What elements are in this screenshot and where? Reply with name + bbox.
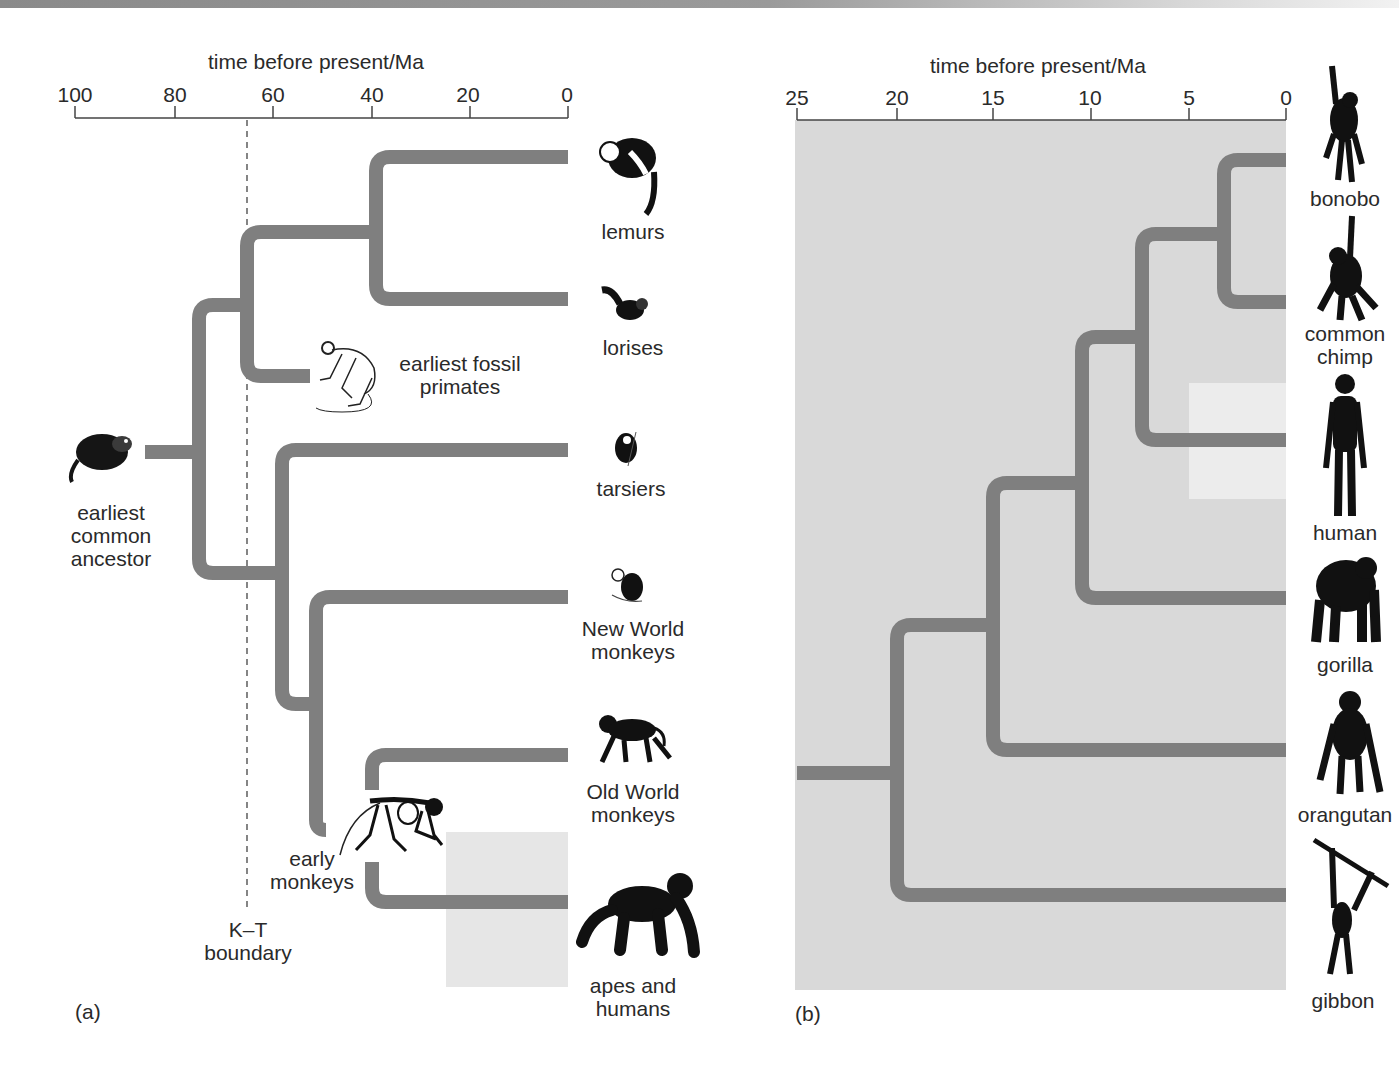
taxon-label-apes-and-humans: apes and humans	[572, 974, 694, 1020]
panel-a-tick: 80	[163, 83, 186, 107]
panel-a-tick: 20	[456, 83, 479, 107]
panel-b-tick: 25	[785, 86, 808, 110]
panel-a-label: (a)	[75, 1000, 101, 1024]
panel-b-tick: 20	[885, 86, 908, 110]
taxon-label-new-world-monkeys: New World monkeys	[572, 617, 694, 663]
panel-b-background	[795, 120, 1286, 990]
shrew-like-mammal-icon	[66, 422, 140, 484]
panel-b-tick: 0	[1280, 86, 1292, 110]
fossil-primates-label: earliest fossil primates	[392, 352, 528, 398]
taxon-label-old-world-monkeys: Old World monkeys	[572, 780, 694, 826]
lemur-icon	[594, 132, 662, 218]
taxon-label-gorilla: gorilla	[1290, 653, 1399, 676]
panel-a-tick: 40	[360, 83, 383, 107]
early-monkeys-label: early monkeys	[264, 847, 360, 893]
primate-skeleton-icon	[312, 338, 392, 416]
taxon-label-common-chimp: common chimp	[1290, 322, 1399, 368]
panel-b-tick: 10	[1078, 86, 1101, 110]
human-silhouette-icon	[1320, 372, 1370, 520]
panel-b-tick: 15	[981, 86, 1004, 110]
loris-icon	[598, 284, 652, 326]
taxon-label-bonobo: bonobo	[1290, 187, 1399, 210]
panel-a-tick: 100	[57, 83, 92, 107]
panel-a-tick: 0	[561, 83, 573, 107]
tarsier-icon	[608, 428, 646, 468]
panel-b-axis	[797, 108, 1286, 120]
bonobo-silhouette-icon	[1318, 64, 1374, 186]
gorilla-silhouette-icon	[1310, 550, 1382, 646]
panel-a-branches	[145, 157, 568, 902]
kt-boundary-label: K–T boundary	[198, 918, 298, 964]
taxon-label-human: human	[1290, 521, 1399, 544]
root-label: earliest common ancestor	[60, 501, 162, 570]
taxon-label-lemurs: lemurs	[572, 220, 694, 243]
apes-highlight-box	[446, 832, 568, 987]
panel-a-axis	[75, 106, 568, 118]
panel-a-tick: 60	[261, 83, 284, 107]
taxon-label-gibbon: gibbon	[1288, 989, 1398, 1012]
taxon-label-tarsiers: tarsiers	[570, 477, 692, 500]
taxon-label-lorises: lorises	[572, 336, 694, 359]
new-world-monkey-icon	[606, 565, 648, 607]
chimpanzee-icon	[576, 870, 704, 960]
panel-a-axis-title: time before present/Ma	[208, 50, 424, 74]
chimp-silhouette-icon	[1312, 214, 1384, 326]
baboon-icon	[594, 710, 674, 768]
panel-b-axis-title: time before present/Ma	[930, 54, 1146, 78]
panel-b-label: (b)	[795, 1002, 821, 1026]
gibbon-silhouette-icon	[1310, 836, 1392, 980]
orangutan-silhouette-icon	[1312, 690, 1388, 800]
taxon-label-orangutan: orangutan	[1290, 803, 1399, 826]
panel-b-tick: 5	[1183, 86, 1195, 110]
